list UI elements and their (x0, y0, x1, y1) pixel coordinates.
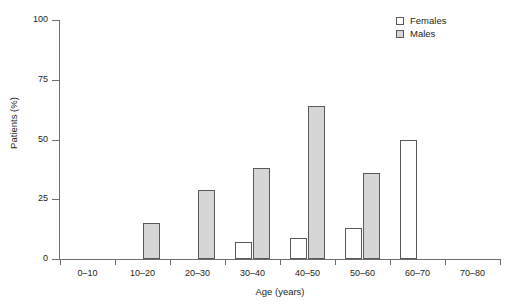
legend-label: Males (410, 27, 435, 40)
bar-females-40-50 (290, 238, 307, 260)
x-axis-title: Age (years) (60, 287, 500, 297)
legend-item-males: Males (396, 27, 446, 40)
bar-females-50-60 (345, 228, 362, 259)
y-axis-tick (52, 199, 59, 200)
y-axis-title: Patients (%) (9, 78, 19, 168)
chart-legend: FemalesMales (396, 14, 446, 40)
x-axis-tick (115, 259, 116, 265)
x-axis-tick (170, 259, 171, 265)
y-axis-tick (52, 259, 59, 260)
legend-label: Females (410, 14, 446, 27)
y-axis-tick (52, 80, 59, 81)
y-axis-tick-label: 25 (0, 194, 48, 203)
x-axis-tick (500, 259, 501, 265)
x-axis-tick-label: 70–80 (445, 268, 500, 278)
x-axis-tick (280, 259, 281, 265)
x-axis-tick-label: 20–30 (170, 268, 225, 278)
y-axis-tick-label: 75 (0, 75, 48, 84)
x-axis-tick-label: 60–70 (390, 268, 445, 278)
legend-swatch-icon (396, 30, 404, 38)
bar-females-60-70 (400, 140, 417, 260)
bar-males-20-30 (198, 190, 215, 259)
bar-males-50-60 (363, 173, 380, 259)
x-axis-tick-label: 10–20 (115, 268, 170, 278)
bar-chart-figure: 0255075100 0–1010–2020–3030–4040–5050–60… (0, 0, 517, 307)
bar-males-40-50 (308, 106, 325, 259)
legend-item-females: Females (396, 14, 446, 27)
y-axis-tick (52, 140, 59, 141)
plot-area (60, 20, 500, 259)
x-axis-tick-label: 0–10 (60, 268, 115, 278)
y-axis-tick-label: 100 (0, 15, 48, 24)
bar-females-30-40 (235, 242, 252, 259)
x-axis-tick (225, 259, 226, 265)
x-axis-tick-label: 30–40 (225, 268, 280, 278)
x-axis-tick (335, 259, 336, 265)
x-axis-tick-label: 50–60 (335, 268, 390, 278)
bar-males-10-20 (143, 223, 160, 259)
x-axis-tick (60, 259, 61, 265)
x-axis-tick (445, 259, 446, 265)
y-axis-tick (52, 20, 59, 21)
y-axis-tick-label: 0 (0, 254, 48, 263)
bar-males-30-40 (253, 168, 270, 259)
legend-swatch-icon (396, 17, 404, 25)
x-axis-tick (390, 259, 391, 265)
x-axis-tick-label: 40–50 (280, 268, 335, 278)
